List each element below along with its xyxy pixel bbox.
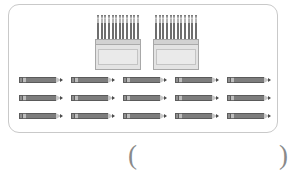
pencil-lead-tip <box>216 114 219 118</box>
box-pencil-icon <box>126 15 128 41</box>
answer-paren-close: ) <box>279 140 288 170</box>
loose-pencil-icon <box>71 77 115 83</box>
box-pencil-icon <box>173 15 175 41</box>
box-pencil-icon <box>119 15 121 41</box>
pencil-body <box>182 77 212 83</box>
pencil-lead-tip <box>268 96 271 100</box>
box-pencil-icon <box>101 15 103 41</box>
loose-pencil-icon <box>19 95 63 101</box>
pencil-lead-tip <box>112 114 115 118</box>
loose-pencil-row <box>19 95 269 103</box>
pencil-lead-tip <box>164 96 167 100</box>
pencil-body <box>130 95 160 101</box>
loose-pencil-icon <box>19 113 63 119</box>
answer-line: ( ) <box>0 140 292 173</box>
loose-pencil-icon <box>227 113 271 119</box>
box-pencil-icon <box>170 15 172 41</box>
illustration-panel <box>8 4 278 133</box>
box-pencil-icon <box>115 15 117 41</box>
box-pencil-icon <box>155 15 157 41</box>
pencil-lead-tip <box>60 96 63 100</box>
loose-pencil-row <box>19 113 269 121</box>
pencil-lead-tip <box>268 114 271 118</box>
box-pencil-icon <box>159 15 161 41</box>
pencil-body <box>234 77 264 83</box>
box-front-label <box>98 49 138 65</box>
loose-pencil-row <box>19 77 269 85</box>
loose-pencil-icon <box>227 95 271 101</box>
box-pencil-icon <box>177 15 179 41</box>
loose-pencil-icon <box>227 77 271 83</box>
box-pencil-icon <box>184 15 186 41</box>
pencil-lead-tip <box>112 78 115 82</box>
loose-pencil-grid <box>19 75 269 131</box>
pencil-body <box>26 95 56 101</box>
pencil-lead-tip <box>112 96 115 100</box>
box-pencil-icon <box>188 15 190 41</box>
pencil-body <box>234 113 264 119</box>
pencil-lead-tip <box>216 96 219 100</box>
pencil-body <box>78 113 108 119</box>
answer-paren-open: ( <box>128 140 137 170</box>
box-pencil-icon <box>112 15 114 41</box>
loose-pencil-icon <box>123 95 167 101</box>
box-pencil-icon <box>195 15 197 41</box>
box-front-lip <box>96 40 140 45</box>
box-pencil-icon <box>180 15 182 41</box>
box-front-label <box>156 49 196 65</box>
box-pencil-icon <box>130 15 132 41</box>
pencil-lead-tip <box>164 78 167 82</box>
pencil-box-1 <box>95 15 141 70</box>
loose-pencil-icon <box>71 95 115 101</box>
loose-pencil-icon <box>19 77 63 83</box>
pencil-body <box>182 113 212 119</box>
box-pencil-icon <box>122 15 124 41</box>
pencil-body <box>234 95 264 101</box>
box-1-front <box>95 39 141 70</box>
box-pencil-icon <box>104 15 106 41</box>
pencil-body <box>130 77 160 83</box>
pencil-body <box>78 77 108 83</box>
loose-pencil-icon <box>175 113 219 119</box>
loose-pencil-icon <box>175 95 219 101</box>
pencil-body <box>78 95 108 101</box>
box-front-lip <box>154 40 198 45</box>
box-pencil-icon <box>137 15 139 41</box>
pencil-lead-tip <box>60 114 63 118</box>
box-pencil-icon <box>191 15 193 41</box>
pencil-body <box>182 95 212 101</box>
box-pencil-icon <box>166 15 168 41</box>
loose-pencil-icon <box>123 113 167 119</box>
loose-pencil-icon <box>71 113 115 119</box>
box-pencil-icon <box>97 15 99 41</box>
box-pencil-icon <box>108 15 110 41</box>
pencil-boxes-group <box>95 15 199 71</box>
box-1-pencil-bundle <box>96 15 140 41</box>
pencil-lead-tip <box>216 78 219 82</box>
pencil-lead-tip <box>164 114 167 118</box>
box-pencil-icon <box>162 15 164 41</box>
pencil-body <box>130 113 160 119</box>
loose-pencil-icon <box>123 77 167 83</box>
box-2-front <box>153 39 199 70</box>
box-pencil-icon <box>133 15 135 41</box>
pencil-box-2 <box>153 15 199 70</box>
pencil-body <box>26 113 56 119</box>
pencil-lead-tip <box>268 78 271 82</box>
pencil-body <box>26 77 56 83</box>
loose-pencil-icon <box>175 77 219 83</box>
box-2-pencil-bundle <box>154 15 198 41</box>
pencil-lead-tip <box>60 78 63 82</box>
